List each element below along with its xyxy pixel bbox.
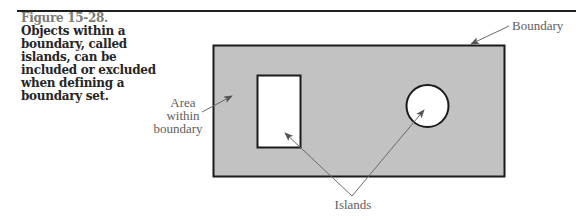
boundary-diagram: Boundary Area within boundary Islands <box>0 0 584 222</box>
area-label-line3: boundary <box>153 121 203 136</box>
boundary-leader-arrow <box>471 26 509 44</box>
islands-label: Islands <box>335 197 372 212</box>
boundary-label: Boundary <box>512 18 564 33</box>
island-rectangle <box>258 76 301 148</box>
island-circle <box>407 85 449 127</box>
